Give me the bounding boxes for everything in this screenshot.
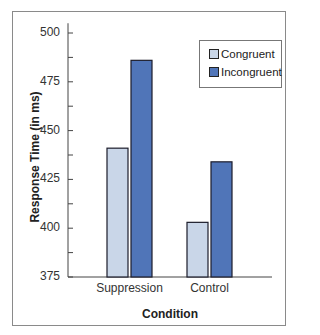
- legend-label: Incongruent: [221, 66, 282, 78]
- x-category-label: Control: [170, 281, 250, 295]
- bar-congruent-suppression: [107, 148, 128, 277]
- incongruent-swatch-icon: [209, 67, 219, 77]
- x-axis-label: Condition: [110, 307, 230, 321]
- y-tick-label: 475: [30, 74, 60, 88]
- legend-label: Congruent: [221, 48, 275, 60]
- congruent-swatch-icon: [209, 49, 219, 59]
- legend-item-incongruent: Incongruent: [209, 66, 282, 78]
- legend-item-congruent: Congruent: [209, 48, 275, 60]
- y-axis-label: Response Time (in ms): [28, 87, 42, 227]
- bar-incongruent-control: [211, 162, 232, 277]
- x-category-label: Suppression: [90, 281, 170, 295]
- bar-incongruent-suppression: [131, 60, 152, 277]
- y-tick-label: 500: [30, 25, 60, 39]
- bar-congruent-control: [187, 222, 208, 277]
- y-tick-label: 375: [30, 269, 60, 283]
- legend: Congruent Incongruent: [199, 40, 282, 88]
